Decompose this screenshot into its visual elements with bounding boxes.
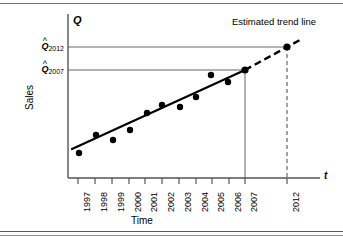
x-axis-symbol: t <box>324 170 327 181</box>
x-tick-label-2007: 2007 <box>249 192 259 212</box>
q-subscript-2012: 2012 <box>48 45 64 52</box>
y-tick-label-q2012: ^Q2012 <box>18 41 64 51</box>
x-tick-label-2006: 2006 <box>233 192 243 212</box>
x-tick-label-2001: 2001 <box>149 192 159 212</box>
x-tick-label-2012: 2012 <box>291 192 301 212</box>
x-tick-label-2004: 2004 <box>200 192 210 212</box>
data-point-2005 <box>208 72 214 78</box>
data-point-2001 <box>144 110 150 116</box>
forecast-trend-line-dashed <box>245 40 300 70</box>
data-point-1999 <box>110 137 116 143</box>
data-point-1997 <box>76 150 82 156</box>
data-point-2000 <box>127 127 133 133</box>
y-axis-symbol: Q <box>73 14 82 26</box>
x-tick-label-1999: 1999 <box>116 192 126 212</box>
y-axis-title: Sales <box>24 68 35 128</box>
x-tick-label-2003: 2003 <box>183 192 193 212</box>
data-point-1998 <box>93 132 99 138</box>
data-point-2003 <box>177 104 183 110</box>
x-tick-label-2002: 2002 <box>166 192 176 212</box>
x-tick-label-2000: 2000 <box>133 192 143 212</box>
figure-canvas: Q t Estimated trend line Sales Time ^Q20… <box>0 0 343 243</box>
x-axis-title: Time <box>131 215 153 226</box>
data-point-2006 <box>225 79 231 85</box>
data-point-2004 <box>193 94 199 100</box>
data-point-2012 <box>283 43 290 50</box>
y-tick-label-q2007: ^Q2007 <box>18 64 64 74</box>
x-axis-ticks <box>78 178 287 184</box>
data-point-2007 <box>241 66 248 73</box>
x-tick-label-1997: 1997 <box>82 192 92 212</box>
x-tick-label-1998: 1998 <box>99 192 109 212</box>
q-subscript-2007: 2007 <box>48 68 64 75</box>
trend-line-annotation: Estimated trend line <box>232 16 316 27</box>
data-point-2002 <box>159 102 165 108</box>
x-tick-label-2005: 2005 <box>216 192 226 212</box>
data-points <box>76 43 291 156</box>
